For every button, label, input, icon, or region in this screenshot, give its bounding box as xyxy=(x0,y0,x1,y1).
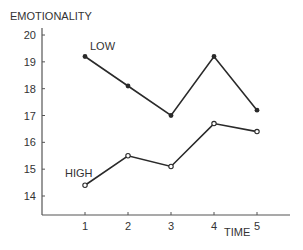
data-point xyxy=(83,183,87,187)
series-high: HIGH xyxy=(65,121,259,187)
line-chart: EMOTIONALITY 14151617181920 12345 LOWHIG… xyxy=(0,0,303,250)
data-point xyxy=(255,108,260,113)
data-point xyxy=(126,84,131,89)
y-axis-label: EMOTIONALITY xyxy=(10,10,93,22)
series-label-low: LOW xyxy=(90,40,116,52)
y-tick-label: 17 xyxy=(24,110,36,122)
x-tick-label: 5 xyxy=(254,220,260,232)
data-point xyxy=(255,129,259,133)
axes xyxy=(42,28,290,215)
series-label-high: HIGH xyxy=(65,167,93,179)
data-point xyxy=(169,113,174,118)
data-point xyxy=(212,54,217,59)
data-point xyxy=(169,164,173,168)
series-low: LOW xyxy=(83,40,260,118)
y-tick-label: 20 xyxy=(24,29,36,41)
y-tick-label: 15 xyxy=(24,163,36,175)
data-point xyxy=(83,54,88,59)
x-tick-label: 2 xyxy=(125,220,131,232)
data-point xyxy=(212,121,216,125)
x-tick-label: 1 xyxy=(82,220,88,232)
data-point xyxy=(126,154,130,158)
y-tick-label: 19 xyxy=(24,56,36,68)
y-tick-label: 18 xyxy=(24,83,36,95)
x-tick-label: 3 xyxy=(168,220,174,232)
y-tick-label: 14 xyxy=(24,190,36,202)
y-tick-label: 16 xyxy=(24,136,36,148)
x-tick-label: 4 xyxy=(211,220,217,232)
x-axis-label: TIME xyxy=(224,226,250,238)
series-group: LOWHIGH xyxy=(65,40,259,187)
